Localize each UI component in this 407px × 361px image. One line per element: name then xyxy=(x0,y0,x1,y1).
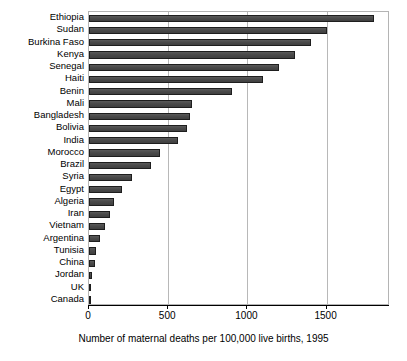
bar-haiti xyxy=(89,76,263,83)
bar-row xyxy=(89,184,388,196)
bar-row xyxy=(89,245,388,257)
bar-row xyxy=(89,86,388,98)
bar-senegal xyxy=(89,64,279,71)
bar-row xyxy=(89,37,388,49)
bar-china xyxy=(89,260,95,267)
x-axis-title: Number of maternal deaths per 100,000 li… xyxy=(0,333,407,344)
bar-egypt xyxy=(89,186,122,193)
bar-syria xyxy=(89,174,132,181)
category-label-mali: Mali xyxy=(0,97,84,109)
bar-bolivia xyxy=(89,125,187,132)
x-tick-1000 xyxy=(246,305,247,309)
category-label-bolivia: Bolivia xyxy=(0,121,84,133)
bar-series xyxy=(89,12,388,304)
category-label-syria: Syria xyxy=(0,170,84,182)
bar-row xyxy=(89,61,388,73)
category-label-india: India xyxy=(0,134,84,146)
category-label-sudan: Sudan xyxy=(0,23,84,35)
category-label-jordan: Jordan xyxy=(0,268,84,280)
category-label-kenya: Kenya xyxy=(0,48,84,60)
bar-row xyxy=(89,196,388,208)
bar-row xyxy=(89,208,388,220)
bar-row xyxy=(89,98,388,110)
bar-mali xyxy=(89,100,192,107)
x-tick-500 xyxy=(167,305,168,309)
bar-benin xyxy=(89,88,232,95)
bar-bangladesh xyxy=(89,113,190,120)
bar-iran xyxy=(89,211,110,218)
bar-row xyxy=(89,257,388,269)
bar-canada xyxy=(89,296,91,303)
x-tick-label-500: 500 xyxy=(137,310,197,321)
category-label-benin: Benin xyxy=(0,85,84,97)
category-label-china: China xyxy=(0,256,84,268)
bar-row xyxy=(89,24,388,36)
x-tick-0 xyxy=(88,305,89,309)
category-label-burkina-faso: Burkina Faso xyxy=(0,36,84,48)
bar-vietnam xyxy=(89,223,105,230)
bar-tunisia xyxy=(89,247,96,254)
x-tick-label-0: 0 xyxy=(58,310,118,321)
category-label-ethiopia: Ethiopia xyxy=(0,11,84,23)
category-label-brazil: Brazil xyxy=(0,158,84,170)
category-label-egypt: Egypt xyxy=(0,183,84,195)
bar-kenya xyxy=(89,51,295,58)
category-label-senegal: Senegal xyxy=(0,60,84,72)
bar-sudan xyxy=(89,27,327,34)
bar-burkina-faso xyxy=(89,39,311,46)
bar-row xyxy=(89,220,388,232)
category-label-bangladesh: Bangladesh xyxy=(0,109,84,121)
category-label-argentina: Argentina xyxy=(0,232,84,244)
x-axis-line xyxy=(88,305,389,306)
category-label-haiti: Haiti xyxy=(0,72,84,84)
bar-uk xyxy=(89,284,91,291)
bar-row xyxy=(89,122,388,134)
bar-row xyxy=(89,135,388,147)
x-tick-1500 xyxy=(326,305,327,309)
category-label-algeria: Algeria xyxy=(0,195,84,207)
maternal-deaths-bar-chart: EthiopiaSudanBurkina FasoKenyaSenegalHai… xyxy=(0,0,407,361)
bar-row xyxy=(89,269,388,281)
bar-row xyxy=(89,147,388,159)
x-tick-label-1000: 1000 xyxy=(216,310,276,321)
bar-row xyxy=(89,282,388,294)
bar-ethiopia xyxy=(89,15,374,22)
category-label-iran: Iran xyxy=(0,207,84,219)
bar-row xyxy=(89,49,388,61)
bar-jordan xyxy=(89,272,92,279)
category-label-tunisia: Tunisia xyxy=(0,244,84,256)
bar-row xyxy=(89,159,388,171)
bar-row xyxy=(89,171,388,183)
bar-argentina xyxy=(89,235,100,242)
category-label-morocco: Morocco xyxy=(0,146,84,158)
bar-row xyxy=(89,73,388,85)
category-label-vietnam: Vietnam xyxy=(0,219,84,231)
category-label-canada: Canada xyxy=(0,293,84,305)
category-axis-labels: EthiopiaSudanBurkina FasoKenyaSenegalHai… xyxy=(0,11,84,305)
bar-row xyxy=(89,12,388,24)
bar-row xyxy=(89,233,388,245)
bar-india xyxy=(89,137,178,144)
bar-morocco xyxy=(89,149,160,156)
x-tick-label-1500: 1500 xyxy=(296,310,356,321)
bar-brazil xyxy=(89,162,151,169)
bar-algeria xyxy=(89,198,114,205)
bar-row xyxy=(89,110,388,122)
category-label-uk: UK xyxy=(0,281,84,293)
plot-area xyxy=(88,11,389,305)
